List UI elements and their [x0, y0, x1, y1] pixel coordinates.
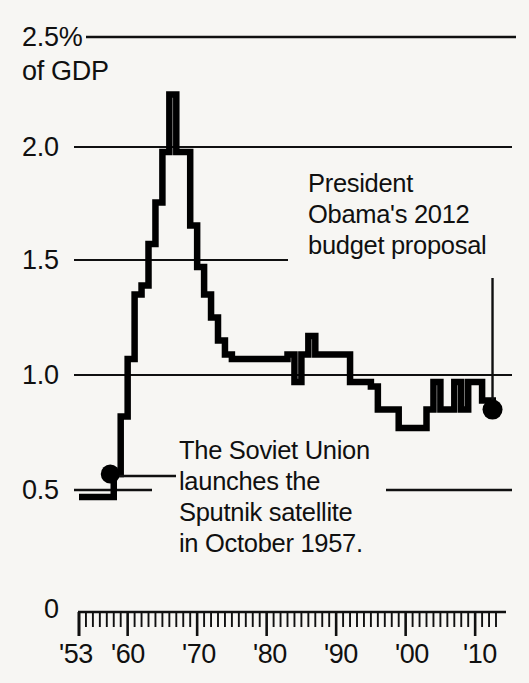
sputnik-annotation-line-4: in October 1957. — [179, 528, 370, 559]
sputnik-annotation: The Soviet Union launches the Sputnik sa… — [179, 435, 370, 559]
sputnik-annotation-line-3: Sputnik satellite — [179, 497, 370, 528]
obama-proposal-marker — [483, 400, 503, 420]
sputnik-annotation-line-2: launches the — [179, 466, 370, 497]
x-axis-minor-ticks — [79, 612, 496, 636]
y-axis-unit-label: of GDP — [22, 56, 109, 87]
y-tick-label-2.0: 2.0 — [22, 132, 59, 163]
sputnik-annotation-line-1: The Soviet Union — [179, 435, 370, 466]
obama-budget-annotation: President Obama's 2012 budget proposal — [308, 168, 486, 261]
gridlines — [74, 37, 516, 490]
x-tick-label-90: '90 — [324, 639, 358, 670]
x-tick-label-80: '80 — [253, 639, 287, 670]
y-tick-label-1.0: 1.0 — [22, 360, 59, 391]
obama-annotation-line-2: Obama's 2012 — [308, 199, 486, 230]
chart-root: 2.5% of GDP 2.0 1.5 1.0 0.5 0 '53 '60 '7… — [0, 0, 529, 683]
x-axis — [78, 612, 506, 636]
x-tick-label-70: '70 — [182, 639, 216, 670]
x-tick-label-60: '60 — [111, 639, 145, 670]
nasa-budget-chart — [0, 0, 529, 683]
y-tick-label-0.5: 0.5 — [22, 475, 59, 506]
y-tick-label-0: 0 — [44, 594, 59, 625]
obama-annotation-line-1: President — [308, 168, 486, 199]
y-tick-label-1.5: 1.5 — [22, 245, 59, 276]
sputnik-marker — [101, 465, 120, 484]
y-tick-label-2.5: 2.5% — [22, 22, 82, 53]
obama-annotation-line-3: budget proposal — [308, 230, 486, 261]
x-tick-label-10: '10 — [463, 639, 497, 670]
x-tick-label-53: '53 — [59, 639, 93, 670]
x-tick-label-00: '00 — [395, 639, 429, 670]
